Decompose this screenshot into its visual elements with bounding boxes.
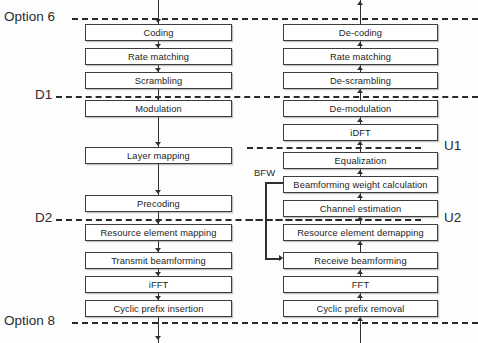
block-label: Transmit beamforming	[111, 256, 206, 266]
block-idft[interactable]: iDFT	[283, 124, 438, 141]
dl-flow-arrow	[155, 68, 161, 72]
block-layer-mapping[interactable]: Layer mapping	[85, 147, 232, 164]
block-rate-matching-ul[interactable]: Rate matching	[283, 48, 438, 65]
label-option-6: Option 6	[4, 9, 55, 24]
block-label: De-scrambling	[330, 76, 391, 86]
dl-flow-arrow	[155, 336, 161, 340]
block-de-scrambling[interactable]: De-scrambling	[283, 72, 438, 89]
block-label: Layer mapping	[127, 151, 190, 161]
label-u1: U1	[444, 138, 461, 153]
block-ifft[interactable]: iFFT	[85, 276, 232, 293]
block-equalization[interactable]: Equalization	[283, 152, 438, 169]
block-modulation[interactable]: Modulation	[85, 100, 232, 117]
ul-flow-arrow	[357, 89, 363, 93]
dl-flow-arrow	[155, 96, 161, 100]
dl-flow-arrow	[155, 19, 161, 23]
split-line-option-8	[72, 322, 478, 324]
block-label: iFFT	[149, 280, 169, 290]
block-label: Beamforming weight calculation	[293, 180, 427, 190]
block-receive-beamforming[interactable]: Receive beamforming	[283, 252, 438, 269]
block-label: De-coding	[339, 28, 382, 38]
ul-flow-arrow	[357, 66, 363, 70]
split-line-d1	[56, 96, 478, 98]
ul-flow-arrow	[357, 1, 363, 5]
ul-flow-arrow	[357, 294, 363, 298]
block-cyclic-prefix-removal[interactable]: Cyclic prefix removal	[283, 300, 438, 317]
block-label: Precoding	[137, 199, 180, 209]
label-d2: D2	[35, 210, 52, 225]
block-de-modulation[interactable]: De-modulation	[283, 100, 438, 117]
block-label: Coding	[143, 28, 173, 38]
block-channel-estimation[interactable]: Channel estimation	[283, 200, 438, 217]
ul-flow-arrow	[357, 141, 363, 145]
block-beamforming-weight-calculation[interactable]: Beamforming weight calculation	[283, 176, 438, 193]
bfw-feedback-segment	[265, 182, 284, 184]
ul-flow-arrow	[357, 170, 363, 174]
ul-flow-arrow	[357, 118, 363, 122]
split-line-u2	[247, 219, 421, 221]
block-label: Rate matching	[128, 52, 189, 62]
dl-flow-arrow	[155, 142, 161, 146]
block-label: Equalization	[335, 156, 387, 166]
ul-flow-arrow	[357, 270, 363, 274]
label-option-8: Option 8	[4, 313, 55, 328]
dl-flow-arrow	[155, 220, 161, 224]
label-u2: U2	[444, 210, 461, 225]
split-line-u1	[247, 147, 421, 149]
label-d1: D1	[35, 87, 52, 102]
block-rate-matching-dl[interactable]: Rate matching	[85, 48, 232, 65]
dl-flow-arrow	[155, 272, 161, 276]
label-bfw: BFW	[254, 167, 275, 178]
dl-flow-arrow	[155, 248, 161, 252]
block-transmit-beamforming[interactable]: Transmit beamforming	[85, 252, 232, 269]
ul-flow-arrow	[357, 42, 363, 46]
block-label: De-modulation	[330, 104, 392, 114]
block-coding[interactable]: Coding	[85, 24, 232, 41]
block-label: FFT	[352, 280, 369, 290]
block-label: Receive beamforming	[314, 256, 406, 266]
block-label: Cyclic prefix removal	[317, 304, 405, 314]
block-fft[interactable]: FFT	[283, 276, 438, 293]
block-resource-element-mapping[interactable]: Resource element mapping	[85, 224, 232, 241]
dl-flow-arrow	[155, 44, 161, 48]
block-cyclic-prefix-insertion[interactable]: Cyclic prefix insertion	[85, 300, 232, 317]
dl-flow-arrow	[155, 190, 161, 194]
block-label: Resource element demapping	[297, 228, 424, 238]
block-label: Rate matching	[330, 52, 391, 62]
block-label: Scrambling	[135, 76, 183, 86]
block-de-coding[interactable]: De-coding	[283, 24, 438, 41]
block-label: Modulation	[135, 104, 181, 114]
block-label: Channel estimation	[320, 204, 401, 214]
block-precoding[interactable]: Precoding	[85, 195, 232, 212]
dl-flow-arrow	[155, 296, 161, 300]
block-scrambling[interactable]: Scrambling	[85, 72, 232, 89]
block-label: Cyclic prefix insertion	[113, 304, 203, 314]
block-resource-element-demapping[interactable]: Resource element demapping	[283, 224, 438, 241]
functional-split-diagram: Coding Rate matching Scrambling Modulati…	[0, 0, 478, 343]
ul-flow-arrow	[357, 241, 363, 245]
split-line-option-6	[72, 18, 478, 20]
block-label: iDFT	[350, 128, 371, 138]
ul-flow-arrow	[357, 317, 363, 321]
bfw-feedback-segment	[265, 182, 267, 259]
ul-flow-arrow	[357, 194, 363, 198]
block-label: Resource element mapping	[100, 228, 216, 238]
